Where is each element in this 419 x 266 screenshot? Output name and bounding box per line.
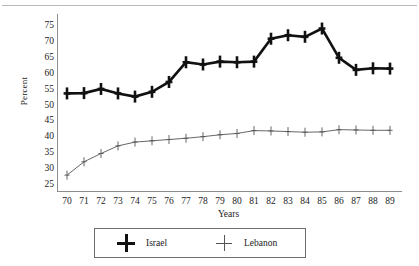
series-israel [64, 23, 394, 103]
x-axis-title: Years [57, 209, 400, 219]
y-axis-tick-label: 40 [30, 132, 54, 142]
y-axis-tick-label: 25 [30, 180, 54, 190]
x-axis-tick-label: 89 [379, 196, 401, 207]
y-axis-tick-label: 50 [30, 101, 54, 111]
legend-entry-lebanon: Lebanon [215, 229, 277, 257]
legend-label-lebanon: Lebanon [244, 238, 277, 248]
y-axis-tick-label: 60 [30, 69, 54, 79]
series-lebanon [64, 125, 392, 179]
y-axis-tick-label: 65 [30, 53, 54, 63]
y-axis-tick-label: 35 [30, 148, 54, 158]
plus-bold-icon [117, 234, 135, 252]
page-rule [2, 5, 417, 6]
chart-figure: Percent 7570656055504540353025 707172737… [0, 0, 419, 266]
y-axis-title: Percent [19, 61, 29, 121]
y-axis-tick-label: 55 [30, 85, 54, 95]
y-axis-tick-label: 30 [30, 164, 54, 174]
y-axis-tick-label: 45 [30, 116, 54, 126]
x-axis-line [57, 191, 402, 192]
y-axis-tick-label: 70 [30, 37, 54, 47]
plus-thin-icon [215, 234, 233, 252]
y-axis-tick-label: 75 [30, 21, 54, 31]
y-axis-tick-labels: 7570656055504540353025 [30, 8, 54, 218]
x-axis-tick-labels: 7071727374757677787980818283848586878889 [57, 196, 400, 210]
legend-entry-israel: Israel [117, 229, 167, 257]
series-canvas [57, 14, 400, 191]
chart-legend: Israel Lebanon [94, 228, 306, 258]
legend-label-israel: Israel [146, 238, 167, 248]
chart-plot-area: Percent 7570656055504540353025 707172737… [0, 8, 419, 218]
